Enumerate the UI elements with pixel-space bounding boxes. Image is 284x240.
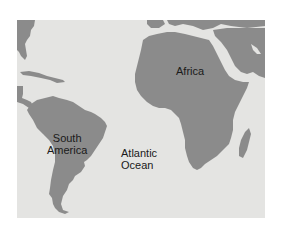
cuba-island	[20, 71, 65, 83]
madagascar-island	[239, 128, 251, 158]
label-africa: Africa	[176, 65, 204, 77]
label-south-america-line1: South	[47, 132, 87, 144]
label-atlantic-ocean: Atlantic Ocean	[121, 147, 157, 171]
map-shapes	[17, 20, 265, 218]
label-atlantic-ocean-line1: Atlantic	[121, 147, 157, 159]
label-south-america-line2: America	[47, 144, 87, 156]
label-south-america: South America	[47, 132, 87, 156]
map-panel: South America Atlantic Ocean Africa	[17, 20, 265, 218]
label-atlantic-ocean-line2: Ocean	[121, 159, 157, 171]
north-america-landmass	[17, 20, 35, 60]
iberia-landmass	[147, 20, 165, 28]
